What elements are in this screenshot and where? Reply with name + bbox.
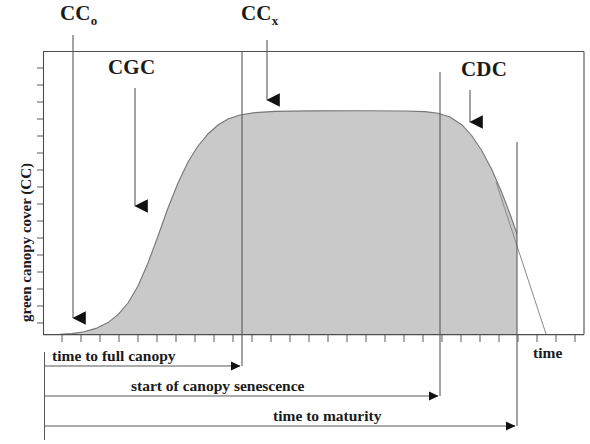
callout-label-cgc: CGC [108, 57, 155, 78]
x-axis-label: time [533, 344, 562, 362]
callout-ccx-text: CC [241, 1, 272, 25]
y-axis-label: green canopy cover (CC) [18, 163, 35, 322]
measure-label-maturity: time to maturity [273, 408, 381, 424]
y-axis-ticks [37, 68, 43, 323]
measure-label-senescence: start of canopy senescence [131, 378, 304, 394]
x-axis-ticks [62, 335, 575, 342]
callout-cc0-text: CC [60, 1, 91, 25]
measurement-arrows [45, 352, 516, 440]
callout-label-ccx: CCx [241, 3, 278, 27]
callout-cc0-sub: o [91, 13, 98, 28]
measure-label-full-canopy: time to full canopy [52, 348, 176, 364]
callout-label-cc0: CCo [60, 3, 97, 27]
callout-ccx-sub: x [272, 13, 279, 28]
callout-label-cdc: CDC [461, 59, 507, 80]
canopy-cover-curve [43, 111, 517, 335]
figure-canvas: green canopy cover (CC) time CCo CGC CCx… [0, 0, 590, 444]
